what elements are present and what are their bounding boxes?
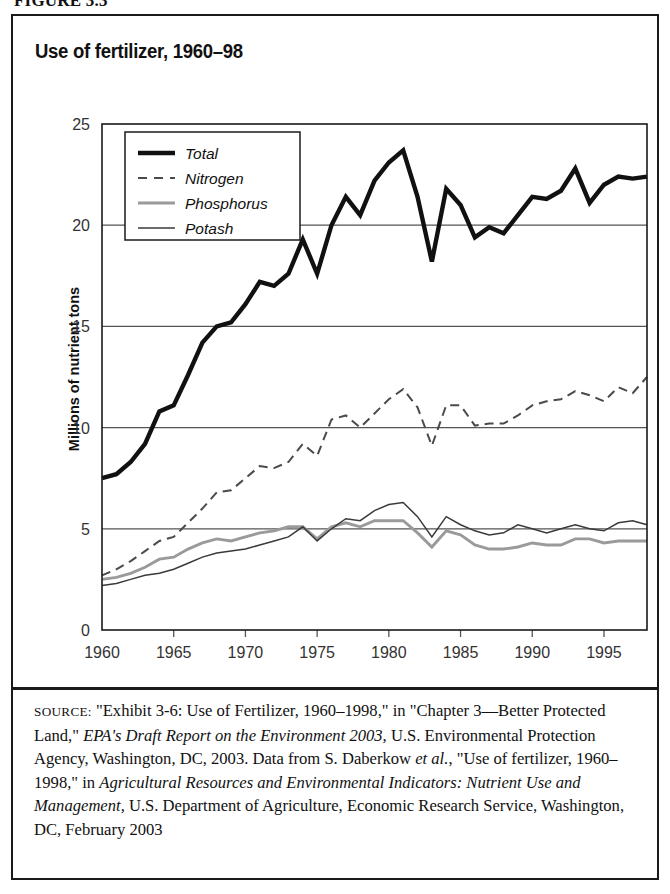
x-tick-label-1985: 1985 [443, 644, 479, 661]
source-label: SOURCE: [34, 704, 92, 719]
figure-label: FIGURE 3.3 [14, 0, 108, 11]
x-axis-ticks: 19601965197019751980198519901995 [84, 630, 622, 661]
x-tick-label-1990: 1990 [514, 644, 550, 661]
x-tick-label-1995: 1995 [586, 644, 622, 661]
y-tick-label-0: 0 [81, 622, 90, 639]
y-axis-ticks: 0510152025 [72, 116, 90, 639]
source-divider [13, 687, 658, 690]
legend-label-nitrogen: Nitrogen [185, 170, 244, 187]
figure-container: Use of fertilizer, 1960–98 Millions of n… [11, 14, 659, 880]
y-tick-label-25: 25 [72, 116, 90, 133]
x-tick-label-1965: 1965 [156, 644, 192, 661]
source-italic-1: EPA's Draft Report on the Environment 20… [83, 726, 387, 745]
y-tick-label-15: 15 [72, 318, 90, 335]
gridlines [102, 225, 647, 529]
series-line-nitrogen [102, 377, 647, 575]
x-tick-label-1975: 1975 [299, 644, 335, 661]
x-tick-label-1970: 1970 [228, 644, 264, 661]
y-tick-label-10: 10 [72, 420, 90, 437]
chart-plot-area: 0510152025 19601965197019751980198519901… [13, 16, 661, 692]
y-tick-label-5: 5 [81, 521, 90, 538]
legend-label-potash: Potash [185, 220, 233, 237]
source-note: SOURCE: "Exhibit 3-6: Use of Fertilizer,… [34, 699, 639, 842]
x-tick-label-1960: 1960 [84, 644, 120, 661]
y-tick-label-20: 20 [72, 217, 90, 234]
series-line-phosphorus [102, 521, 647, 580]
x-tick-label-1980: 1980 [371, 644, 407, 661]
fertilizer-line-chart: 0510152025 19601965197019751980198519901… [13, 16, 661, 692]
legend-label-phosphorus: Phosphorus [185, 195, 268, 212]
legend-label-total: Total [185, 145, 219, 162]
source-italic-2: et al. [415, 749, 448, 768]
chart-legend: TotalNitrogenPhosphorusPotash [125, 132, 300, 240]
